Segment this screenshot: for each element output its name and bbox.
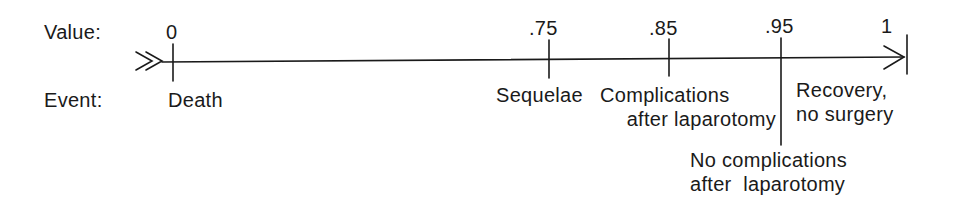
event-label-complications-line2: after laparotomy bbox=[598, 107, 776, 131]
axis-line bbox=[162, 57, 904, 62]
event-label-recovery: Recovery, no surgery bbox=[796, 78, 894, 126]
value-label-1: 1 bbox=[881, 14, 892, 38]
value-label-0: 0 bbox=[166, 20, 177, 44]
event-label-recovery-line2: no surgery bbox=[796, 102, 894, 126]
event-label-complications: Complications after laparotomy bbox=[598, 83, 776, 131]
value-row-label: Value: bbox=[44, 20, 101, 44]
event-label-no-complications-line1: No complications bbox=[690, 148, 847, 172]
value-label-095: .95 bbox=[765, 14, 794, 38]
value-label-085: .85 bbox=[649, 16, 678, 40]
event-label-complications-line1: Complications bbox=[598, 83, 776, 107]
event-label-recovery-line1: Recovery, bbox=[796, 78, 894, 102]
value-label-075: .75 bbox=[529, 16, 558, 40]
event-row-label: Event: bbox=[44, 88, 103, 112]
event-label-no-complications-line2: after laparotomy bbox=[690, 172, 847, 196]
event-label-sequelae: Sequelae bbox=[496, 83, 583, 107]
event-label-death: Death bbox=[168, 88, 223, 112]
event-label-no-complications: No complications after laparotomy bbox=[690, 148, 847, 196]
